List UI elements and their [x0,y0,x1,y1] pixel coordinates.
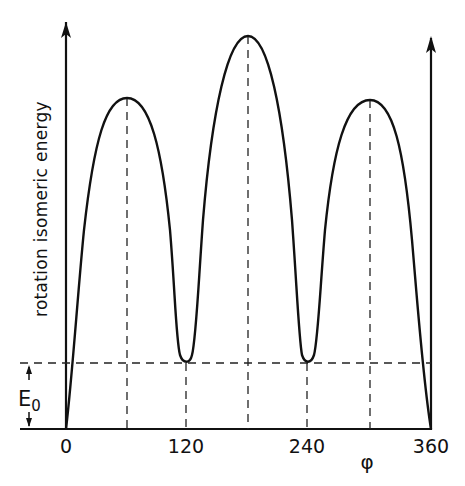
e0-annotation: E0 [18,365,41,427]
y-axis-label: rotation isomeric energy [31,101,51,317]
arrow-up-icon [26,365,32,374]
x-axis-label: φ [360,450,373,474]
reference-lines [20,36,431,429]
x-tick-120: 120 [168,435,204,457]
x-tick-0: 0 [60,435,72,457]
arrow-down-icon [26,418,32,427]
x-tick-360: 360 [413,435,449,457]
x-tick-240: 240 [289,435,325,457]
e0-label: E0 [18,387,41,415]
energy-chart: E0 rotation isomeric energy 0 120 240 36… [0,0,465,486]
axes [20,22,436,430]
